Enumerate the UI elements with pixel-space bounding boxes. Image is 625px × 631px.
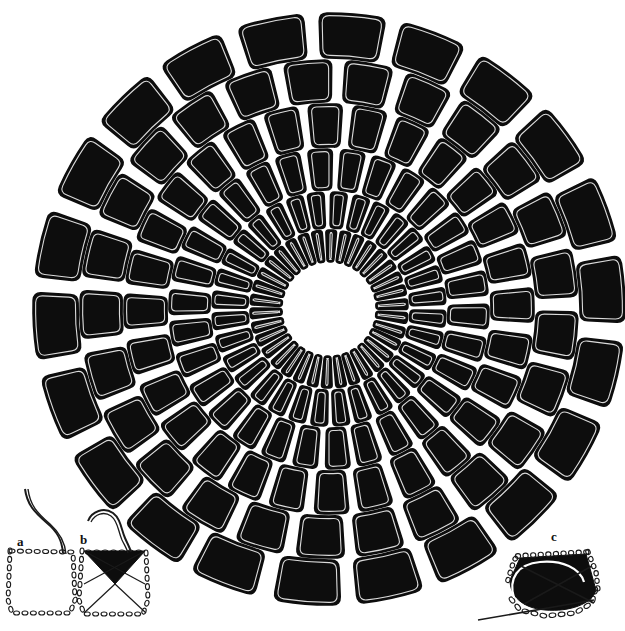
- comb-cell: [80, 291, 123, 338]
- comb-cell: [577, 256, 625, 322]
- comb-cell: [284, 60, 331, 104]
- inset-label-b: b: [80, 532, 87, 547]
- comb-cell: [319, 13, 385, 62]
- comb-cell: [33, 293, 81, 359]
- figure-plate: a b c: [0, 0, 625, 631]
- inset-label-c: c: [551, 529, 557, 544]
- comb-hub: [283, 263, 375, 355]
- comb-cell: [275, 557, 341, 605]
- inset-label-a: a: [17, 534, 24, 549]
- figure-canvas: a b c: [0, 0, 625, 631]
